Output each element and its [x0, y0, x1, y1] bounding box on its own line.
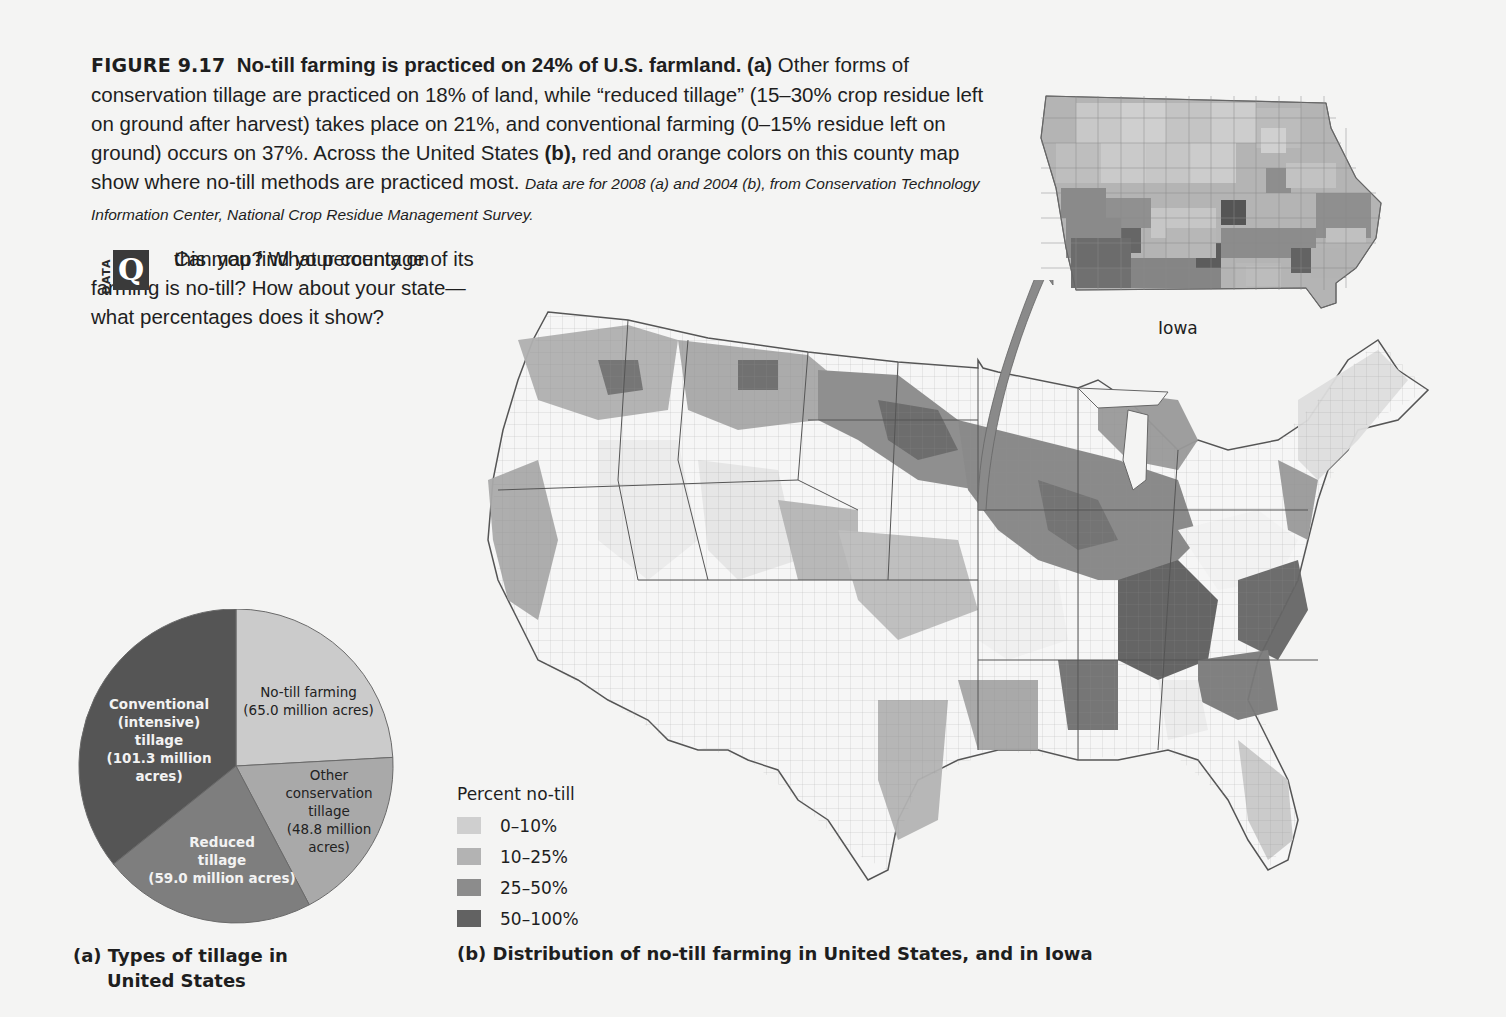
figure-number: FIGURE 9.17	[91, 54, 225, 76]
data-q-badge: DATA Q	[91, 248, 161, 296]
legend-item-25-50: 25–50%	[457, 872, 579, 903]
legend-item-0-10: 0–10%	[457, 810, 579, 841]
legend-swatch	[457, 848, 481, 865]
us-no-till-map	[478, 280, 1438, 900]
caption-a: (a) Types of tillage in United States	[73, 943, 288, 993]
pie-label-no-till: No-till farming (65.0 million acres)	[236, 683, 381, 719]
pie-label-reduced: Reduced tillage (59.0 million acres)	[137, 833, 307, 887]
question-icon: Q	[113, 250, 149, 290]
data-question: DATA Q Can you find your county on this …	[91, 244, 491, 331]
iowa-label: Iowa	[1158, 318, 1198, 338]
figure-caption: FIGURE 9.17 No-till farming is practiced…	[91, 50, 991, 229]
legend-item-50-100: 50–100%	[457, 903, 579, 934]
legend-item-10-25: 10–25%	[457, 841, 579, 872]
part-a-marker: (a)	[747, 53, 772, 76]
legend-swatch	[457, 817, 481, 834]
figure-headline: No-till farming is practiced on 24% of U…	[237, 53, 742, 76]
caption-b: (b) Distribution of no-till farming in U…	[457, 943, 1093, 964]
legend-swatch	[457, 879, 481, 896]
legend-swatch	[457, 910, 481, 927]
map-legend: Percent no-till 0–10% 10–25% 25–50% 50–1…	[457, 784, 579, 934]
legend-title: Percent no-till	[457, 784, 579, 804]
part-b-marker: (b),	[545, 141, 577, 164]
iowa-inset-map	[1036, 88, 1386, 318]
pie-label-conventional: Conventional (intensive) tillage (101.3 …	[94, 695, 224, 785]
